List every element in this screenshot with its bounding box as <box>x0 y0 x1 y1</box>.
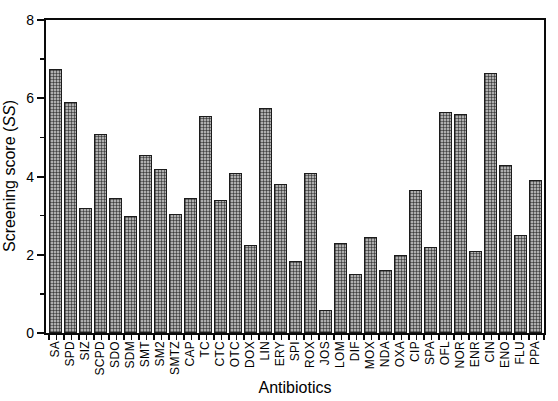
x-tick <box>101 335 103 340</box>
x-tick-label-mox: MOX <box>364 341 377 369</box>
x-tick-label-dif: DIF <box>349 341 362 361</box>
x-tick <box>146 335 148 340</box>
x-tick-label-nor: NOR <box>454 341 467 369</box>
plot-area <box>44 18 546 335</box>
x-tick <box>491 335 493 340</box>
x-tick-label-eno: ENO <box>499 341 512 368</box>
x-tick <box>78 335 80 340</box>
x-tick-label-spd: SPD <box>64 341 77 367</box>
bar-sm2 <box>154 169 167 333</box>
bar-spa <box>424 247 437 333</box>
x-tick-label-sdo: SDO <box>109 341 122 368</box>
x-tick <box>71 335 73 340</box>
bar-rox <box>304 173 317 333</box>
y-tick-label-6: 6 <box>8 90 34 106</box>
bar-dif <box>349 274 362 333</box>
x-tick <box>251 335 253 340</box>
bar-flu <box>514 235 527 333</box>
y-tick-major <box>37 332 44 334</box>
x-tick <box>326 335 328 340</box>
x-tick-label-cip: CIP <box>409 341 422 362</box>
x-tick <box>153 335 155 340</box>
x-tick-label-nda: NDA <box>379 341 392 367</box>
x-tick <box>528 335 530 340</box>
x-tick <box>206 335 208 340</box>
bar-sdo <box>109 198 122 333</box>
y-tick-major <box>37 254 44 256</box>
x-tick-label-ofl: OFL <box>439 341 452 365</box>
x-tick <box>446 335 448 340</box>
x-tick-label-spa: SPA <box>424 341 437 365</box>
x-tick <box>513 335 515 340</box>
x-tick <box>93 335 95 340</box>
x-tick <box>341 335 343 340</box>
x-tick <box>476 335 478 340</box>
bar-mox <box>364 237 377 333</box>
bar-spd <box>64 102 77 333</box>
x-tick <box>506 335 508 340</box>
bar-cin <box>484 73 497 333</box>
x-tick <box>281 335 283 340</box>
bar-tc <box>199 116 212 333</box>
bar-ppa <box>529 180 542 333</box>
x-tick <box>131 335 133 340</box>
x-tick <box>363 335 365 340</box>
y-tick-label-4: 4 <box>8 169 34 185</box>
x-tick <box>243 335 245 340</box>
bar-nda <box>379 270 392 333</box>
x-tick <box>423 335 425 340</box>
x-tick <box>318 335 320 340</box>
bar-otc <box>229 173 242 333</box>
x-tick-label-flu: FLU <box>514 341 527 365</box>
x-tick-label-smtz: SMTZ <box>169 341 182 375</box>
x-tick-label-lom: LOM <box>334 341 347 368</box>
y-tick-label-0: 0 <box>8 325 34 341</box>
x-tick <box>161 335 163 340</box>
x-tick <box>386 335 388 340</box>
y-tick-minor <box>40 215 44 217</box>
y-tick-minor <box>40 293 44 295</box>
bar-lom <box>334 243 347 333</box>
x-tick <box>56 335 58 340</box>
x-tick <box>48 335 50 340</box>
x-tick <box>168 335 170 340</box>
x-tick <box>198 335 200 340</box>
x-tick-label-enr: ENR <box>469 341 482 367</box>
bar-enr <box>469 251 482 333</box>
x-tick <box>63 335 65 340</box>
x-tick <box>438 335 440 340</box>
x-tick <box>213 335 215 340</box>
x-tick <box>236 335 238 340</box>
x-tick-label-oxa: OXA <box>394 341 407 367</box>
x-tick-label-sm2: SM2 <box>154 341 167 367</box>
x-tick <box>221 335 223 340</box>
x-tick <box>378 335 380 340</box>
x-tick <box>348 335 350 340</box>
x-axis-title: Antibiotics <box>259 379 332 397</box>
x-tick <box>356 335 358 340</box>
x-tick <box>303 335 305 340</box>
x-tick-label-sa: SA <box>49 341 62 358</box>
y-tick-label-8: 8 <box>8 12 34 28</box>
x-tick-label-smt: SMT <box>139 341 152 367</box>
bar-nor <box>454 114 467 333</box>
x-tick <box>453 335 455 340</box>
bar-eno <box>499 165 512 333</box>
x-tick-label-sdm: SDM <box>124 341 137 369</box>
x-tick <box>288 335 290 340</box>
y-axis-title-prefix: Screening score ( <box>1 127 18 252</box>
bar-ofl <box>439 112 452 333</box>
x-tick <box>116 335 118 340</box>
x-tick <box>266 335 268 340</box>
bar-sdm <box>124 216 137 333</box>
x-tick <box>311 335 313 340</box>
x-tick <box>273 335 275 340</box>
x-tick <box>431 335 433 340</box>
y-axis-title-italic: SS <box>1 105 18 126</box>
x-tick <box>333 335 335 340</box>
x-tick <box>393 335 395 340</box>
x-tick-label-spi: SPI <box>289 341 302 361</box>
bar-smtz <box>169 214 182 333</box>
x-tick-label-rox: ROX <box>304 341 317 368</box>
bar-lin <box>259 108 272 333</box>
